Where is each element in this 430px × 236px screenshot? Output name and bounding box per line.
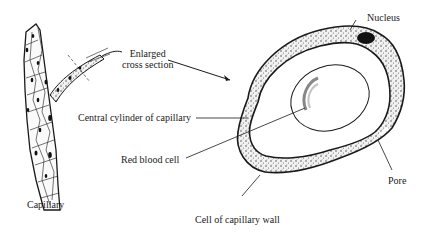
leader-enlarged-left [102,51,122,56]
label-nucleus: Nucleus [367,12,400,23]
diagram-canvas [0,0,430,236]
cross-section-drawing [238,26,405,173]
label-red-blood-cell: Red blood cell [121,154,179,165]
leader-cell-wall [242,175,260,196]
leader-enlarged-right [168,60,230,80]
label-pore: Pore [388,175,406,186]
label-enlarged-line2: cross section [122,59,173,70]
label-enlarged-line1: Enlarged [122,48,173,59]
label-capillary: Capillary [27,199,64,210]
nucleus-shape [357,32,375,44]
label-central-cylinder: Central cylinder of capillary [78,112,191,123]
label-enlarged: Enlarged cross section [122,48,173,70]
red-blood-cell-shape [281,54,378,142]
label-cell-wall: Cell of capillary wall [195,214,280,225]
leader-pore [378,140,392,170]
